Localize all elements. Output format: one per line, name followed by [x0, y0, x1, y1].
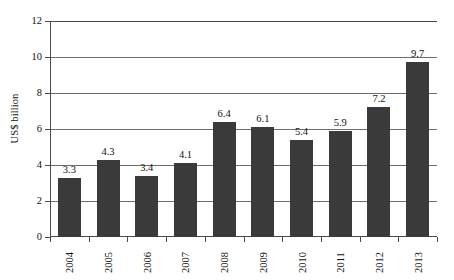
x-axis-label-text: 2007 [180, 243, 191, 280]
bar-value-label-2008: 6.4 [204, 109, 244, 120]
bar-value-label-2009: 6.1 [243, 114, 283, 125]
x-axis-label-text: 2006 [141, 243, 152, 280]
bar-value-label-2004: 3.3 [49, 165, 89, 176]
x-axis-label-text: 2013 [412, 243, 423, 280]
x-axis-label-text: 2009 [257, 243, 268, 280]
x-tick-2 [127, 237, 128, 242]
x-tick-5 [244, 237, 245, 242]
bar-2006 [135, 176, 158, 237]
bar-2007 [174, 163, 197, 237]
bar-value-label-2007: 4.1 [165, 150, 205, 161]
x-axis-label-2013: 2013 [398, 246, 438, 276]
x-axis-label-text: 2005 [103, 243, 114, 280]
plot-area: 3.34.33.44.16.46.15.45.97.29.7 [50, 21, 437, 237]
y-axis-label-10: 10 [22, 52, 42, 63]
bar-2009 [251, 127, 274, 237]
y-axis-label-8: 8 [22, 88, 42, 99]
bar-2008 [213, 122, 236, 237]
x-tick-0 [50, 237, 51, 242]
gridline-10 [50, 57, 437, 58]
bar-value-label-2012: 7.2 [359, 94, 399, 105]
x-tick-9 [398, 237, 399, 242]
bar-value-label-2005: 4.3 [88, 147, 128, 158]
x-tick-10 [437, 237, 438, 242]
bar-2013 [406, 62, 429, 237]
bar-2004 [58, 178, 81, 237]
x-axis-label-text: 2008 [219, 243, 230, 280]
x-tick-8 [360, 237, 361, 242]
y-axis-label-6: 6 [22, 124, 42, 135]
x-axis-label-2009: 2009 [243, 246, 283, 276]
x-axis-label-text: 2012 [373, 243, 384, 280]
x-axis-label-2007: 2007 [165, 246, 205, 276]
gridline-12 [50, 21, 437, 22]
bar-2012 [367, 107, 390, 237]
x-axis-label-text: 2011 [335, 243, 346, 280]
bar-value-label-2010: 5.4 [282, 127, 322, 138]
x-axis-label-2006: 2006 [127, 246, 167, 276]
x-axis-label-2005: 2005 [88, 246, 128, 276]
y-axis-label-0: 0 [22, 232, 42, 243]
x-axis-label-text: 2004 [64, 243, 75, 280]
x-axis-label-2008: 2008 [204, 246, 244, 276]
bar-value-label-2013: 9.7 [398, 49, 438, 60]
bar-2010 [290, 140, 313, 237]
y-axis-title-label: US$ billion [10, 94, 21, 144]
y-axis-label-4: 4 [22, 160, 42, 171]
x-tick-3 [166, 237, 167, 242]
y-axis-line [50, 21, 51, 237]
x-axis-label-2004: 2004 [49, 246, 89, 276]
x-axis-label-2011: 2011 [320, 246, 360, 276]
x-axis-label-2010: 2010 [282, 246, 322, 276]
x-axis-label-text: 2010 [296, 243, 307, 280]
x-tick-4 [205, 237, 206, 242]
bar-value-label-2011: 5.9 [320, 118, 360, 129]
bar-2005 [97, 160, 120, 237]
bar-value-label-2006: 3.4 [127, 163, 167, 174]
bar-2011 [329, 131, 352, 237]
x-tick-1 [89, 237, 90, 242]
y-axis-label-12: 12 [22, 16, 42, 27]
x-tick-6 [282, 237, 283, 242]
y-axis-label-2: 2 [22, 196, 42, 207]
bar-chart: US$ billion 024681012 3.34.33.44.16.46.1… [0, 0, 454, 280]
x-tick-7 [321, 237, 322, 242]
x-axis-label-2012: 2012 [359, 246, 399, 276]
